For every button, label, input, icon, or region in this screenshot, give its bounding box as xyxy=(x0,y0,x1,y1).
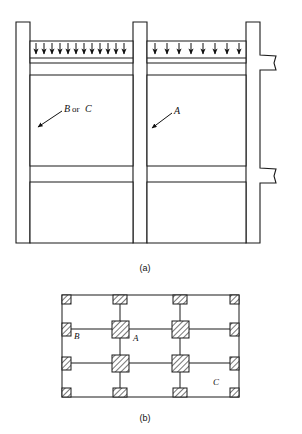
label-c: C xyxy=(85,103,92,114)
upper-beam-right-outline xyxy=(147,41,246,63)
caption-panel-a: (a) xyxy=(140,263,151,273)
interior-column xyxy=(112,355,129,372)
edge-column-right xyxy=(230,323,239,336)
edge-column-top xyxy=(173,295,187,304)
panel-opening-lower-right xyxy=(147,182,246,243)
left-column xyxy=(16,22,30,243)
panel-a-section: B or C A (a) xyxy=(16,22,276,273)
edge-column-top xyxy=(113,295,127,304)
panel-b-plan: B A C (b) xyxy=(62,295,239,423)
middle-column-outline xyxy=(133,22,147,243)
corner-column xyxy=(230,388,239,397)
panel-opening-lower-left xyxy=(30,182,133,243)
left-column-outline xyxy=(16,22,30,243)
plan-label-b: B xyxy=(74,331,80,341)
edge-column-left xyxy=(62,323,71,336)
middle-column xyxy=(133,22,147,243)
interior-column xyxy=(172,321,189,338)
corner-column xyxy=(62,295,71,304)
upper-beam-left-bay xyxy=(30,41,133,63)
edge-column-right xyxy=(230,357,239,370)
structural-figure: B or C A (a) xyxy=(0,0,302,434)
right-column-outline xyxy=(246,22,276,243)
corner-column xyxy=(62,388,71,397)
label-a: A xyxy=(173,105,181,116)
corner-column xyxy=(230,295,239,304)
right-column xyxy=(246,22,276,243)
interior-column xyxy=(112,321,129,338)
panel-opening-left xyxy=(30,75,133,166)
label-or: or xyxy=(72,104,80,114)
upper-beam-left-outline xyxy=(30,41,133,63)
caption-panel-b: (b) xyxy=(140,413,151,423)
plan-label-a: A xyxy=(132,333,139,343)
figure-root: B or C A (a) xyxy=(0,0,302,434)
plan-label-c: C xyxy=(213,377,220,387)
edge-column-bottom xyxy=(113,388,127,397)
interior-column xyxy=(172,355,189,372)
edge-column-bottom xyxy=(173,388,187,397)
edge-column-left xyxy=(62,357,71,370)
upper-beam-right-bay xyxy=(147,41,246,63)
label-b: B xyxy=(64,103,70,114)
